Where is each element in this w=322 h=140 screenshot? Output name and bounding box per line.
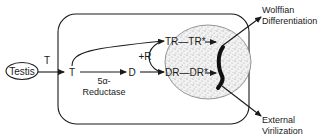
secreted-t-label: T [44, 55, 50, 66]
wolffian-label-line1: Wolffian [262, 5, 294, 15]
arrow-to-external [222, 86, 261, 116]
androgen-pathway-diagram: Testis T T 5α- Reductase D +R TR—TR* DR—… [0, 0, 322, 140]
enzyme-label-line1: 5α- [97, 76, 110, 86]
t-node: T [69, 67, 75, 78]
dr-complex-label: DR—DR* [165, 67, 208, 78]
wolffian-label-line2: Differentiation [262, 16, 317, 26]
external-label-line2: Virilization [262, 126, 303, 136]
enzyme-label-line2: Reductase [82, 87, 125, 97]
tr-complex-label: TR—TR* [165, 36, 206, 47]
plus-r-label: +R [138, 51, 151, 62]
d-node: D [128, 67, 135, 78]
external-label-line1: External [262, 115, 295, 125]
testis-label: Testis [9, 66, 35, 77]
